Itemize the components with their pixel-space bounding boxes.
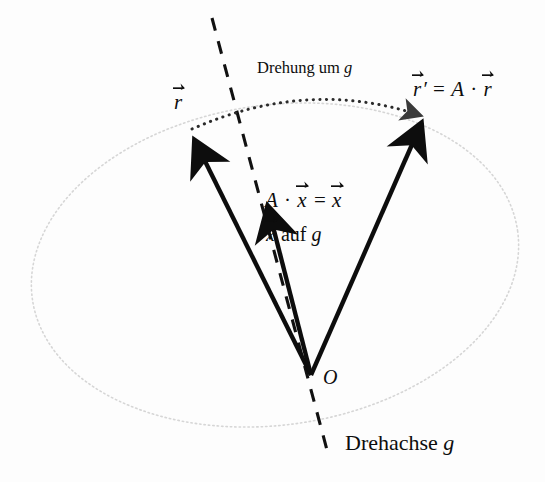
vector-r-label: r — [174, 92, 183, 113]
vector-x-symbol: x — [297, 190, 307, 211]
eigen-equation-label: A · x = x — [265, 190, 342, 211]
rotation-axis-label: Drehachse g — [345, 432, 454, 454]
origin-label: O — [323, 367, 337, 387]
vector-x-symbol: x — [266, 224, 276, 244]
vector-r-prime-equation-label: r ′ = A · r — [413, 79, 493, 100]
dot-operator: · — [469, 77, 478, 101]
dot-operator: · — [283, 188, 292, 212]
vector-r-symbol: r — [174, 92, 183, 113]
x-on-axis-label: x auf g — [266, 224, 321, 244]
rotation-arc — [192, 99, 419, 129]
rotation-axis-label-symbol: g — [443, 430, 454, 455]
rotation-axis-label-text: Drehachse — [345, 430, 438, 455]
rotation-diagram: Drehung um g r r ′ = A · — [0, 0, 545, 482]
equals-sign: = — [432, 77, 446, 101]
rotation-arc-label: Drehung um g — [257, 60, 352, 77]
prime-mark: ′ — [422, 77, 427, 101]
rotation-arc-label-text: Drehung um — [257, 58, 340, 77]
rotation-plane-ellipse — [10, 72, 540, 457]
vector-r-symbol-rhs: r — [483, 79, 492, 100]
vector-r-prime-arrow — [311, 124, 421, 375]
matrix-a-symbol: A — [265, 188, 278, 212]
x-on-axis-preposition: auf — [281, 223, 307, 245]
vector-x-symbol-result: x — [332, 190, 342, 211]
rotation-arc-label-symbol: g — [344, 58, 352, 77]
equals-sign: = — [313, 188, 327, 212]
vector-r-prime-symbol: r — [413, 79, 422, 100]
vector-r-arrow — [195, 141, 311, 375]
matrix-a-symbol: A — [451, 77, 464, 101]
axis-g-symbol: g — [311, 223, 321, 245]
